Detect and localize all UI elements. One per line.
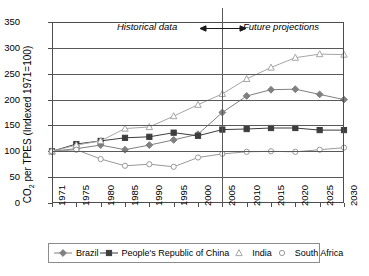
historical-future-divider bbox=[222, 8, 223, 203]
x-tick-mark-2020 bbox=[295, 203, 296, 207]
x-tick-mark-2025 bbox=[320, 203, 321, 207]
diamond-marker bbox=[53, 248, 73, 258]
gridline-300 bbox=[52, 48, 344, 49]
y-tick-label-200: 200 bbox=[0, 95, 20, 104]
y-tick-label-250: 250 bbox=[0, 69, 20, 78]
legend-item-brazil[interactable]: Brazil bbox=[53, 248, 99, 258]
annotation-arrows bbox=[200, 24, 246, 33]
x-tick-mark-1985 bbox=[125, 203, 126, 207]
y-axis-title: CO2 per TPES (Indexed 1971=100) bbox=[22, 35, 35, 215]
x-tick-mark-1990 bbox=[149, 203, 150, 207]
x-tick-label-2010: 2010 bbox=[251, 185, 262, 206]
x-tick-label-2030: 2030 bbox=[348, 185, 359, 206]
gridline-200 bbox=[52, 100, 344, 101]
legend-label: India bbox=[252, 248, 272, 258]
y-tick-label-350: 350 bbox=[0, 17, 20, 26]
x-tick-label-1980: 1980 bbox=[105, 185, 116, 206]
gridline-50 bbox=[52, 177, 344, 178]
triangle-marker bbox=[229, 248, 249, 258]
square-marker bbox=[99, 248, 119, 258]
x-tick-label-2005: 2005 bbox=[226, 185, 237, 206]
x-tick-label-1975: 1975 bbox=[80, 185, 91, 206]
y-tick-label-300: 300 bbox=[0, 43, 20, 52]
x-tick-mark-2005 bbox=[222, 203, 223, 207]
y-tick-label-50: 50 bbox=[0, 172, 20, 181]
x-tick-label-2015: 2015 bbox=[275, 185, 286, 206]
gridline-250 bbox=[52, 74, 344, 75]
x-tick-mark-2010 bbox=[247, 203, 248, 207]
legend-label: Brazil bbox=[76, 248, 99, 258]
x-tick-label-1990: 1990 bbox=[153, 185, 164, 206]
plot-area bbox=[52, 22, 344, 203]
x-tick-label-2025: 2025 bbox=[324, 185, 335, 206]
series-brazil bbox=[49, 86, 348, 155]
x-tick-mark-1975 bbox=[76, 203, 77, 207]
gridline-100 bbox=[52, 151, 344, 152]
x-tick-mark-1971 bbox=[52, 203, 53, 207]
x-tick-mark-2015 bbox=[271, 203, 272, 207]
annotation-historical: Historical data bbox=[117, 21, 177, 32]
annotation-future: Future projections bbox=[243, 21, 319, 32]
x-tick-mark-1980 bbox=[101, 203, 102, 207]
circle-marker bbox=[272, 248, 292, 258]
co2-per-tpes-chart: CO2 per TPES (Indexed 1971=100) 05010015… bbox=[0, 0, 369, 276]
x-tick-label-1985: 1985 bbox=[129, 185, 140, 206]
y-axis-title-text: CO2 per TPES (Indexed 1971=100) bbox=[22, 46, 33, 203]
x-tick-label-1971: 1971 bbox=[56, 185, 67, 206]
x-tick-mark-2030 bbox=[344, 203, 345, 207]
x-tick-mark-2000 bbox=[198, 203, 199, 207]
y-tick-label-150: 150 bbox=[0, 120, 20, 129]
x-tick-mark-1995 bbox=[174, 203, 175, 207]
x-tick-label-2020: 2020 bbox=[299, 185, 310, 206]
legend-item-india[interactable]: India bbox=[229, 248, 272, 258]
chart-legend: BrazilPeople's Republic of ChinaIndiaSou… bbox=[48, 243, 320, 263]
series-layer bbox=[52, 22, 344, 203]
series-south-africa bbox=[49, 145, 346, 169]
x-tick-label-1995: 1995 bbox=[178, 185, 189, 206]
series-people-s-republic-of-china bbox=[49, 125, 346, 153]
x-tick-label-2000: 2000 bbox=[202, 185, 213, 206]
legend-label: South Africa bbox=[295, 248, 344, 258]
legend-item-south-africa[interactable]: South Africa bbox=[272, 248, 344, 258]
y-tick-label-0: 0 bbox=[0, 198, 20, 207]
legend-item-people-s-republic-of-china[interactable]: People's Republic of China bbox=[99, 248, 230, 258]
axis-line-right bbox=[343, 22, 344, 203]
gridline-150 bbox=[52, 125, 344, 126]
axis-line-left bbox=[52, 22, 53, 203]
legend-label: People's Republic of China bbox=[122, 248, 230, 258]
y-tick-label-100: 100 bbox=[0, 146, 20, 155]
